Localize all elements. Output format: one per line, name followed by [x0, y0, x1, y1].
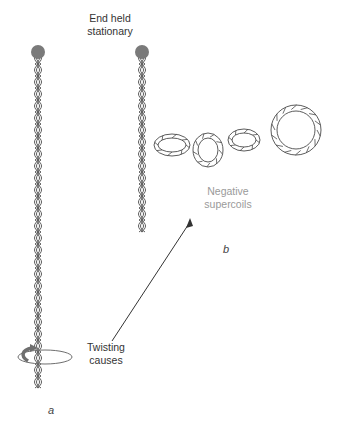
supercoil-diagram [0, 0, 337, 430]
rope-a [35, 52, 42, 388]
label-end-held: End held stationary [70, 12, 150, 38]
panel-label-a: a [43, 404, 59, 417]
supercoil-loops [154, 105, 321, 167]
label-twisting-causes: Twisting causes [76, 341, 136, 367]
rope-b [139, 52, 146, 232]
panel-label-b: b [218, 243, 234, 256]
end-cap-a [31, 45, 45, 59]
rotation-arrow-icon [18, 344, 72, 364]
label-negative-supercoils: Negative supercoils [188, 185, 268, 211]
end-cap-b [135, 45, 149, 59]
pointer-arrow [112, 218, 193, 341]
